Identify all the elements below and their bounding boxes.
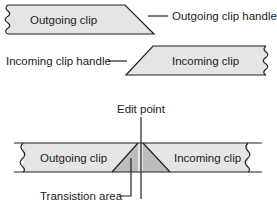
bottom-outgoing-clip-label: Outgoing clip bbox=[40, 152, 107, 164]
outgoing-clip-handle-label: Outgoing clip handle bbox=[172, 10, 277, 22]
incoming-clip-handle-label: Incoming clip handle bbox=[6, 55, 111, 67]
bottom-incoming-clip-label: Incoming clip bbox=[174, 152, 241, 164]
edit-diagram: Outgoing clip Outgoing clip handle Incom… bbox=[0, 0, 277, 218]
transition-area-label: Transistion area bbox=[40, 190, 123, 202]
outgoing-clip-label: Outgoing clip bbox=[30, 14, 97, 26]
incoming-clip-label: Incoming clip bbox=[172, 55, 239, 67]
edit-point-label: Edit point bbox=[117, 103, 166, 115]
